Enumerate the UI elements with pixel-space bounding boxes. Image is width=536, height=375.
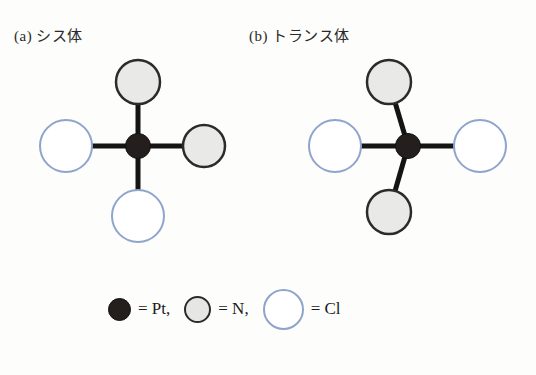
legend-entry-pt: = Pt, (108, 298, 170, 321)
chemical-structure-figure: (a) シス体 (b) トランス体 (0, 0, 536, 375)
legend-label-n: = N, (218, 299, 248, 319)
pt-circle-icon (108, 298, 131, 321)
atom-n-bottom-trans (367, 190, 411, 234)
legend-entry-cl: = Cl (263, 289, 341, 330)
cl-circle-icon (263, 289, 304, 330)
n-circle-icon (184, 296, 211, 323)
atom-n-right-cis (183, 125, 225, 167)
atom-cl-left-trans (309, 120, 361, 172)
molecule-trans (309, 60, 506, 234)
legend-label-pt: = Pt, (138, 299, 170, 319)
atom-cl-left-cis (40, 120, 92, 172)
molecule-cis (40, 60, 225, 242)
atom-cl-right-trans (454, 120, 506, 172)
legend-entry-n: = N, (184, 296, 248, 323)
atom-n-top-trans (367, 60, 411, 104)
atom-pt-center-trans (396, 134, 421, 159)
atom-n-top-cis (116, 60, 160, 104)
legend: = Pt, = N, = Cl (108, 286, 438, 332)
atom-pt-center-cis (126, 134, 151, 159)
legend-label-cl: = Cl (311, 299, 341, 319)
atom-cl-bottom-cis (112, 190, 164, 242)
